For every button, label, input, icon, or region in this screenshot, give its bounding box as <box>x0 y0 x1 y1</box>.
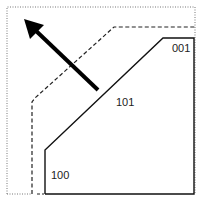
label-001: 001 <box>172 42 190 54</box>
arrow-shaft <box>33 28 98 90</box>
label-101: 101 <box>116 96 134 108</box>
label-100: 100 <box>51 169 69 181</box>
dotted-outer-border <box>7 7 195 194</box>
diagram-canvas: 001 101 100 <box>0 0 200 200</box>
